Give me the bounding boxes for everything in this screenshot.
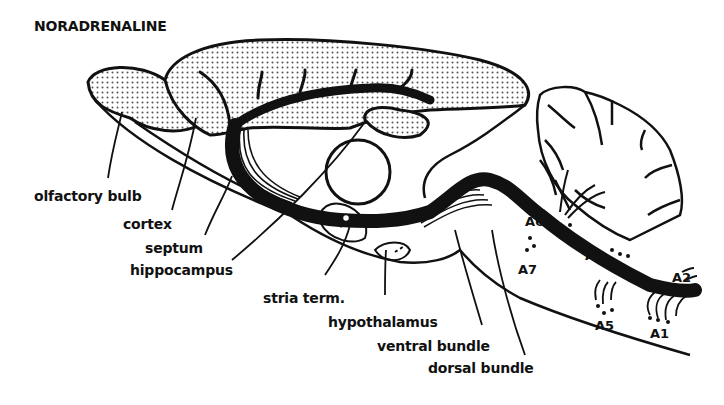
label-cell-group-a6: A6	[525, 214, 544, 229]
noradrenaline-pathway-diagram: NORADRENALINE olfactory bulb cortex sept…	[0, 0, 724, 405]
label-cell-group-a2: A2	[672, 270, 691, 285]
label-stria-terminalis: stria term.	[263, 290, 345, 306]
label-cortex: cortex	[123, 216, 172, 232]
label-dorsal-bundle: dorsal bundle	[428, 360, 534, 376]
label-ventral-bundle: ventral bundle	[377, 338, 490, 354]
label-septum: septum	[145, 240, 203, 256]
diagram-title: NORADRENALINE	[34, 18, 167, 34]
label-cell-group-a5: A5	[595, 318, 614, 333]
cerebellum	[537, 87, 682, 240]
label-hippocampus: hippocampus	[130, 262, 233, 278]
label-cell-group-a4: A4	[585, 248, 604, 263]
label-cell-group-a1: A1	[650, 326, 669, 341]
label-cell-group-a7: A7	[518, 262, 537, 277]
label-hypothalamus: hypothalamus	[328, 314, 438, 330]
thalamus-circle	[326, 140, 390, 204]
label-olfactory-bulb: olfactory bulb	[34, 188, 141, 204]
